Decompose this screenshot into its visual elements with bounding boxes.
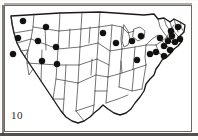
national-outline [11, 12, 185, 123]
map-dot-d14 [138, 33, 144, 39]
map-dot-d03 [15, 35, 21, 41]
figure-container: 10 [0, 0, 198, 140]
map-svg [4, 5, 192, 132]
map-dot-d04 [35, 38, 41, 44]
map-dot-d13 [147, 51, 153, 57]
map-dot-d02 [43, 24, 49, 30]
map-dot-d16 [161, 53, 167, 59]
map-dot-d07 [39, 58, 45, 64]
map-dot-d22 [175, 24, 181, 30]
map-dot-d23 [168, 28, 174, 34]
us-dot-distribution-map [4, 5, 192, 132]
map-dot-d11 [129, 38, 135, 44]
map-dot-d10 [113, 40, 119, 46]
map-dot-d24 [161, 43, 167, 49]
map-dot-d12 [134, 57, 140, 63]
distribution-dot-layer [10, 18, 183, 67]
map-dot-d06 [53, 44, 59, 50]
map-dot-d17 [157, 35, 163, 41]
map-dot-d21 [177, 36, 183, 42]
figure-number-label: 10 [11, 110, 23, 121]
map-dot-d09 [100, 30, 106, 36]
map-dot-d08 [54, 61, 60, 67]
map-dot-d25 [167, 47, 173, 53]
map-dot-d15 [153, 49, 159, 55]
frame-bottom-rule [0, 133, 198, 136]
map-dot-d18 [165, 38, 171, 44]
map-dot-d05 [10, 51, 16, 57]
map-dot-d01 [20, 18, 26, 24]
